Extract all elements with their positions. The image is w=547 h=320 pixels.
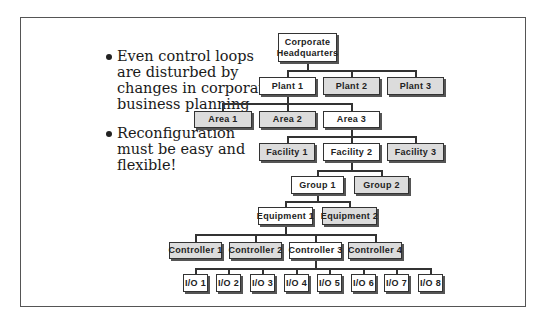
node-area-2: Area 2 bbox=[259, 111, 316, 128]
connector-line bbox=[351, 127, 353, 136]
node-io-2: I/O 2 bbox=[216, 274, 241, 292]
connector-line bbox=[351, 161, 353, 170]
connector-line bbox=[415, 136, 417, 143]
bullet-text: Reconfiguration must be easy and flexibl… bbox=[117, 125, 245, 173]
node-facility-2: Facility 2 bbox=[323, 143, 380, 161]
node-plant-1: Plant 1 bbox=[259, 77, 316, 95]
connector-line bbox=[287, 95, 289, 103]
bullet-item: Reconfiguration must be easy and flexibl… bbox=[106, 125, 276, 173]
node-plant-3: Plant 3 bbox=[387, 77, 444, 95]
connector-line bbox=[195, 234, 376, 236]
connector-line bbox=[287, 70, 289, 77]
node-controller-1: Controller 1 bbox=[169, 242, 222, 259]
node-io-5: I/O 5 bbox=[317, 274, 342, 292]
node-io-3: I/O 3 bbox=[250, 274, 275, 292]
connector-line bbox=[195, 234, 197, 242]
connector-line bbox=[375, 234, 377, 242]
node-controller-3: Controller 3 bbox=[289, 242, 342, 259]
node-plant-2: Plant 2 bbox=[323, 77, 380, 95]
node-equipment-1: Equipment 1 bbox=[258, 207, 313, 225]
node-equipment-2: Equipment 2 bbox=[322, 207, 377, 225]
connector-line bbox=[255, 234, 257, 242]
node-group-2: Group 2 bbox=[354, 176, 409, 194]
connector-line bbox=[315, 259, 317, 268]
node-io-6: I/O 6 bbox=[351, 274, 376, 292]
node-facility-3: Facility 3 bbox=[387, 143, 444, 161]
connector-line bbox=[307, 62, 309, 70]
connector-line bbox=[415, 70, 417, 77]
connector-line bbox=[287, 136, 289, 143]
connector-line bbox=[317, 170, 382, 172]
bullet-dot-icon bbox=[106, 54, 112, 60]
node-io-7: I/O 7 bbox=[384, 274, 409, 292]
node-io-4: I/O 4 bbox=[284, 274, 309, 292]
connector-line bbox=[285, 201, 350, 203]
connector-line bbox=[285, 225, 287, 234]
connector-line bbox=[315, 234, 317, 242]
node-area-3: Area 3 bbox=[323, 111, 380, 128]
node-group-1: Group 1 bbox=[291, 176, 344, 194]
node-io-8: I/O 8 bbox=[418, 274, 443, 292]
node-area-1: Area 1 bbox=[194, 111, 252, 128]
connector-line bbox=[351, 70, 353, 77]
connector-line bbox=[351, 136, 353, 143]
connector-line bbox=[351, 103, 353, 111]
node-facility-1: Facility 1 bbox=[259, 143, 315, 161]
node-controller-4: Controller 4 bbox=[348, 242, 402, 259]
connector-line bbox=[317, 194, 319, 201]
connector-line bbox=[222, 103, 224, 111]
node-io-1: I/O 1 bbox=[183, 274, 208, 292]
connector-line bbox=[287, 103, 289, 111]
node-corporate-headquarters: Corporate Headquarters bbox=[278, 33, 337, 62]
bullet-dot-icon bbox=[106, 131, 112, 137]
node-controller-2: Controller 2 bbox=[229, 242, 282, 259]
